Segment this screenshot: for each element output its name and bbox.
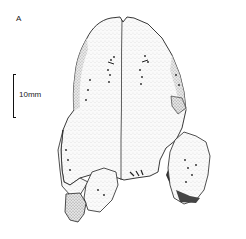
skull-illustration [0,0,246,239]
skull-outline [61,17,186,185]
